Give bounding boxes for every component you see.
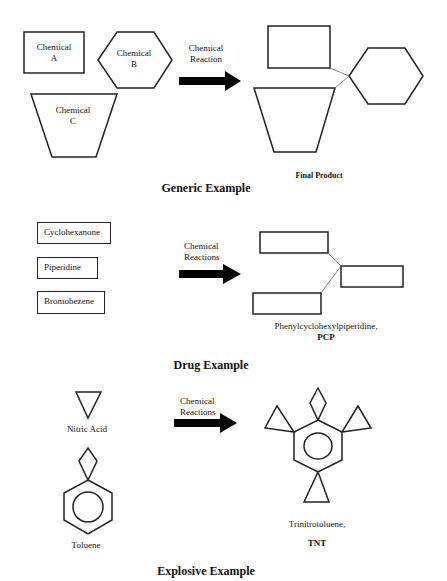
toluene-diamond xyxy=(79,448,97,480)
pcp-box-2 xyxy=(341,266,403,287)
chemical-a-label: Chemical A xyxy=(37,42,72,64)
product-trapezoid xyxy=(254,88,335,152)
toluene-circle xyxy=(73,492,103,522)
label-line: Chemical xyxy=(117,48,152,59)
label-line: Reaction xyxy=(189,54,224,65)
tnt-name-label: Trinitrotoluene, xyxy=(289,519,345,530)
pcp-box-3 xyxy=(253,293,321,314)
bond-line xyxy=(328,253,341,266)
bond-line xyxy=(335,76,349,88)
label-line: Reactions xyxy=(180,407,216,418)
tnt-triangle-bottom xyxy=(304,472,329,502)
pcp-box-1 xyxy=(260,232,328,253)
tnt-diamond xyxy=(310,388,326,420)
final-product-label: Final Product xyxy=(295,170,342,181)
label-line: Chemical xyxy=(180,396,216,407)
pcp-name-label: Phenylcyclohexylpiperidine, xyxy=(274,321,377,332)
pcp-abbrev-label: PCP xyxy=(317,332,335,343)
drug-arrow-icon xyxy=(179,264,241,284)
generic-arrow-label: Chemical Reaction xyxy=(189,43,224,65)
generic-arrow-icon xyxy=(179,71,241,91)
chemical-c-label: Chemical C xyxy=(56,105,91,127)
label-line: Chemical xyxy=(189,43,224,54)
tnt-circle xyxy=(304,433,332,459)
explosive-example-title: Explosive Example xyxy=(157,564,255,579)
tnt-triangle-left xyxy=(265,406,294,432)
bond-line xyxy=(330,68,349,76)
reagent-bromobezene: Bromobezene xyxy=(37,291,105,314)
reagent-cyclohexanone: Cyclohexanone xyxy=(37,222,111,244)
reagent-piperidine: Piperidine xyxy=(37,257,98,279)
tnt-abbrev-label: TNT xyxy=(308,538,327,549)
drug-arrow-label: Chemical Reactions xyxy=(184,241,220,263)
label-line: Chemical xyxy=(184,241,220,252)
label-line: C xyxy=(56,116,91,127)
nitric-acid-triangle xyxy=(76,392,101,418)
label-line: Chemical xyxy=(37,42,72,53)
bond-line xyxy=(321,266,341,293)
label-line: Chemical xyxy=(56,105,91,116)
tnt-triangle-right xyxy=(342,406,371,432)
product-rectangle xyxy=(268,26,330,68)
toluene-ring xyxy=(64,480,112,534)
explosive-arrow-label: Chemical Reactions xyxy=(180,396,216,418)
nitric-acid-label: Nitric Acid xyxy=(67,424,107,435)
tnt-ring xyxy=(294,420,342,472)
label-line: Reactions xyxy=(184,252,220,263)
drug-example-title: Drug Example xyxy=(174,358,249,373)
chemical-b-label: Chemical B xyxy=(117,48,152,70)
product-hexagon xyxy=(349,48,423,104)
generic-example-title: Generic Example xyxy=(162,181,251,196)
toluene-label: Toluene xyxy=(72,540,101,551)
label-line: B xyxy=(117,59,152,70)
label-line: A xyxy=(37,53,72,64)
